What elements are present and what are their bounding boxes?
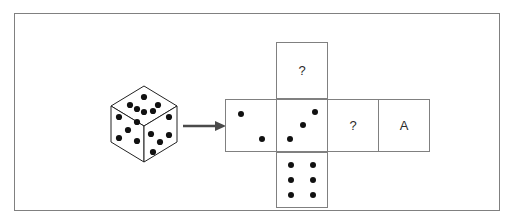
pip xyxy=(312,109,318,115)
pip xyxy=(288,177,294,183)
net-face-top-label: ? xyxy=(277,43,327,98)
arrow-svg xyxy=(183,118,227,134)
pip xyxy=(300,122,306,128)
pip xyxy=(259,136,265,142)
puzzle-figure: ? ? A xyxy=(0,0,516,223)
figure-border: ? ? A xyxy=(14,13,500,211)
pip xyxy=(310,177,316,183)
pip xyxy=(310,162,316,168)
isometric-die xyxy=(109,84,179,164)
net-face-row-col-3[interactable]: A xyxy=(378,99,430,152)
pip xyxy=(310,192,316,198)
net-face-top[interactable]: ? xyxy=(276,42,328,99)
die-svg xyxy=(109,84,179,164)
net-face-row-col-0[interactable] xyxy=(225,99,277,152)
arrow-right-icon xyxy=(183,118,227,134)
net-face-row-col-2[interactable]: ? xyxy=(327,99,379,152)
net-face-bottom[interactable] xyxy=(276,152,328,208)
net-face-row-col-3-label: A xyxy=(379,100,429,151)
pip xyxy=(238,111,244,117)
pip xyxy=(287,136,293,142)
net-face-row-col-2-label: ? xyxy=(328,100,378,151)
pip xyxy=(288,192,294,198)
net-face-row-col-1[interactable] xyxy=(276,99,328,152)
cube-net: ? ? A xyxy=(225,42,437,208)
pip xyxy=(288,162,294,168)
